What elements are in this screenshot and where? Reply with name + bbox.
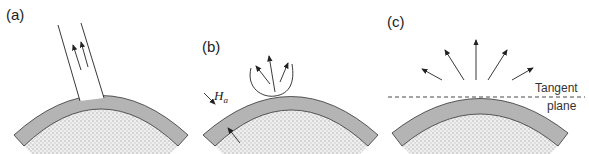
thickness-label: Ha bbox=[213, 88, 228, 105]
tangent-label: Tangent bbox=[535, 81, 578, 95]
arrow-icon bbox=[512, 68, 533, 80]
arrow-icon bbox=[422, 69, 442, 80]
panel-c: (c) Tangent plane bbox=[387, 13, 585, 154]
plane-label: plane bbox=[547, 99, 577, 113]
panel-b: (b) Ha bbox=[202, 38, 378, 154]
arrow-icon bbox=[445, 50, 464, 80]
panel-a: (a) bbox=[6, 6, 188, 154]
panel-label-a: (a) bbox=[6, 6, 24, 23]
beam-a bbox=[58, 25, 104, 101]
panel-label-b: (b) bbox=[202, 38, 220, 55]
panel-label-c: (c) bbox=[387, 13, 405, 30]
arrow-icon bbox=[488, 50, 507, 80]
diagram-canvas: (a) (b) Ha (c) Tangent plane bbox=[0, 0, 589, 154]
